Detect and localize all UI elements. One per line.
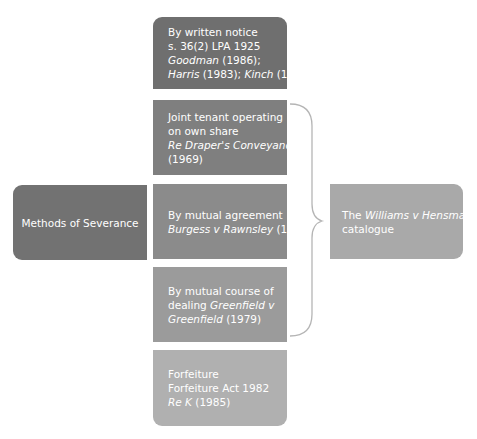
- curly-brace-icon: [290, 100, 330, 340]
- text-segment: Forfeiture Act 1982: [168, 382, 269, 394]
- method-own-share-box: Joint tenant operatingon own shareRe Dra…: [153, 100, 287, 175]
- text-segment: By mutual course of: [168, 285, 274, 297]
- text-segment: on own share: [168, 125, 239, 137]
- text-segment: catalogue: [342, 223, 394, 235]
- central-node-methods-of-severance: Methods of Severance: [13, 185, 147, 260]
- case-name: Burgess v Rawnsley: [168, 223, 273, 235]
- case-name: Re Draper's Conveyance: [168, 139, 298, 151]
- text-line: catalogue: [342, 222, 472, 236]
- method-text: Joint tenant operatingon own shareRe Dra…: [153, 110, 304, 166]
- method-text: ForfeitureForfeiture Act 1982Re K (1985): [153, 367, 275, 409]
- text-line: Joint tenant operating: [168, 110, 298, 124]
- text-line: Forfeiture Act 1982: [168, 381, 269, 395]
- text-segment: Joint tenant operating: [168, 111, 283, 123]
- text-segment: (1983);: [199, 68, 244, 80]
- text-line: By mutual course of: [168, 284, 274, 298]
- text-line: By written notice: [168, 25, 312, 39]
- text-segment: dealing: [168, 299, 210, 311]
- method-mutual-agreement-box: By mutual agreementBurgess v Rawnsley (1…: [153, 184, 287, 259]
- text-line: dealing Greenfield v: [168, 298, 274, 312]
- text-line: on own share: [168, 124, 298, 138]
- williams-v-hensman-catalogue-box: The Williams v Hensmancatalogue: [330, 184, 463, 259]
- method-written-notice-box: By written notices. 36(2) LPA 1925Goodma…: [153, 17, 287, 89]
- text-segment: (1979): [223, 313, 261, 325]
- text-line: (1969): [168, 152, 298, 166]
- text-segment: s. 36(2) LPA 1925: [168, 40, 260, 52]
- text-line: The Williams v Hensman: [342, 208, 472, 222]
- case-name: Kinch: [245, 68, 274, 80]
- text-line: Forfeiture: [168, 367, 269, 381]
- text-line: Re Draper's Conveyance: [168, 138, 298, 152]
- method-course-of-dealing-box: By mutual course ofdealing Greenfield vG…: [153, 267, 287, 342]
- case-name: Re K: [168, 396, 192, 408]
- text-segment: By mutual agreement: [168, 209, 283, 221]
- catalogue-text: The Williams v Hensmancatalogue: [330, 208, 477, 236]
- case-name: Greenfield v: [210, 299, 274, 311]
- method-text: By mutual course ofdealing Greenfield vG…: [153, 284, 280, 326]
- method-forfeiture-box: ForfeitureForfeiture Act 1982Re K (1985): [153, 350, 287, 426]
- central-node-label: Methods of Severance: [21, 216, 138, 230]
- text-line: Greenfield (1979): [168, 312, 274, 326]
- text-segment: Forfeiture: [168, 368, 219, 380]
- text-segment: (1985): [192, 396, 230, 408]
- text-segment: The: [342, 209, 365, 221]
- text-line: Re K (1985): [168, 395, 269, 409]
- case-name: Harris: [168, 68, 199, 80]
- method-text: By written notices. 36(2) LPA 1925Goodma…: [153, 25, 318, 81]
- text-segment: (1969): [168, 153, 203, 165]
- text-segment: (1999): [273, 68, 311, 80]
- text-segment: (1986);: [219, 54, 261, 66]
- text-line: Harris (1983); Kinch (1999): [168, 67, 312, 81]
- text-segment: By written notice: [168, 26, 258, 38]
- case-name: Greenfield: [168, 313, 223, 325]
- text-line: Goodman (1986);: [168, 53, 312, 67]
- case-name: Goodman: [168, 54, 219, 66]
- text-line: s. 36(2) LPA 1925: [168, 39, 312, 53]
- case-name: Williams v Hensman: [365, 209, 472, 221]
